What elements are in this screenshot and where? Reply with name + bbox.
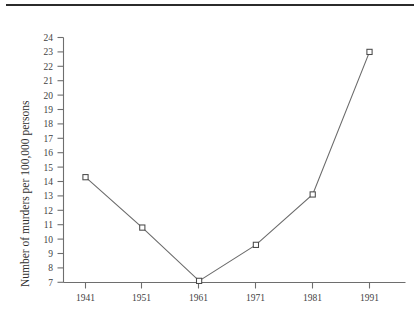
y-tick-23: 23 (44, 47, 64, 57)
x-tick-label: 1991 (360, 293, 379, 303)
y-tick-label: 17 (44, 134, 54, 144)
y-tick-label: 9 (48, 249, 53, 259)
y-axis-title: Number of murders per 100,000 persons (19, 100, 32, 287)
x-tick-1991: 1991 (360, 283, 379, 304)
y-tick-9: 9 (48, 249, 63, 259)
y-tick-8: 8 (48, 263, 63, 273)
y-axis-ticks: 24 23 22 21 20 19 18 17 16 15 14 13 12 1… (44, 33, 64, 288)
x-tick-label: 1951 (132, 293, 151, 303)
y-tick-20: 20 (44, 91, 64, 101)
y-tick-label: 10 (44, 235, 54, 245)
x-tick-1941: 1941 (76, 283, 95, 304)
line-chart-plot: Number of murders per 100,000 persons 24… (0, 0, 420, 316)
x-tick-1951: 1951 (132, 283, 151, 304)
data-point-marker (310, 192, 315, 197)
y-tick-label: 13 (44, 191, 54, 201)
y-tick-13: 13 (44, 191, 64, 201)
y-tick-label: 19 (44, 105, 54, 115)
y-tick-18: 18 (44, 119, 64, 129)
x-tick-label: 1971 (246, 293, 265, 303)
y-tick-17: 17 (44, 134, 64, 144)
y-tick-label: 20 (44, 91, 54, 101)
y-tick-label: 7 (48, 278, 53, 288)
y-tick-label: 8 (48, 263, 53, 273)
y-tick-15: 15 (44, 163, 64, 173)
y-tick-label: 16 (44, 148, 54, 158)
data-point-marker (253, 242, 258, 247)
y-tick-label: 24 (44, 33, 54, 43)
y-tick-label: 22 (44, 62, 54, 72)
y-tick-label: 14 (44, 177, 54, 187)
y-tick-19: 19 (44, 105, 64, 115)
x-tick-1971: 1971 (246, 283, 265, 304)
y-tick-label: 12 (44, 206, 54, 216)
y-tick-16: 16 (44, 148, 64, 158)
data-point-marker (367, 49, 372, 54)
murder-rate-line (86, 52, 370, 281)
chart-figure: Number of murders per 100,000 persons 24… (0, 0, 420, 316)
x-tick-1961: 1961 (189, 283, 208, 304)
murder-rate-markers (83, 49, 372, 283)
y-tick-label: 18 (44, 119, 54, 129)
y-tick-21: 21 (44, 76, 64, 86)
y-tick-label: 15 (44, 163, 54, 173)
x-axis-ticks: 1941 1951 1961 1971 1981 1991 (76, 283, 379, 304)
y-tick-14: 14 (44, 177, 64, 187)
data-point-marker (140, 225, 145, 230)
y-tick-label: 11 (44, 220, 53, 230)
data-point-marker (83, 175, 88, 180)
y-tick-24: 24 (44, 33, 64, 43)
y-tick-11: 11 (44, 220, 64, 230)
y-tick-7: 7 (48, 278, 63, 288)
y-tick-12: 12 (44, 206, 64, 216)
x-tick-1981: 1981 (303, 283, 322, 304)
x-tick-label: 1981 (303, 293, 322, 303)
y-tick-10: 10 (44, 235, 64, 245)
y-tick-22: 22 (44, 62, 64, 72)
x-tick-label: 1941 (76, 293, 95, 303)
y-tick-label: 21 (44, 76, 54, 86)
x-tick-label: 1961 (189, 293, 208, 303)
y-tick-label: 23 (44, 47, 54, 57)
data-point-marker (197, 278, 202, 283)
